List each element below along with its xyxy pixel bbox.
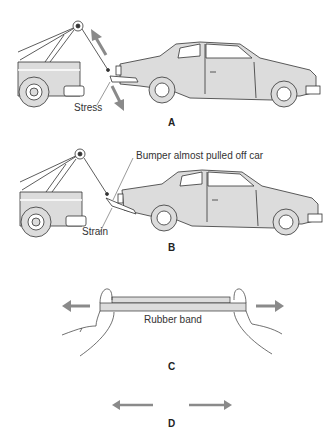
panel-letter-d: D xyxy=(168,418,175,429)
bumper-label: Bumper almost pulled off car xyxy=(136,150,263,161)
stress-label: Stress xyxy=(74,102,102,113)
panel-b: Bumper almost pulled off car Strain B xyxy=(0,130,334,270)
panel-letter-a: A xyxy=(168,117,175,128)
rubber-band xyxy=(100,297,246,311)
strain-label: Strain xyxy=(82,226,108,237)
arrow-icon xyxy=(112,400,232,410)
tow-truck-stress-illustration xyxy=(0,0,334,130)
force-arrows-illustration xyxy=(0,380,334,441)
panel-letter-b: B xyxy=(168,242,175,253)
panel-c: Rubber band C xyxy=(0,270,334,380)
panel-a: Stress A xyxy=(0,0,334,130)
panel-letter-c: C xyxy=(168,361,175,372)
car-icon xyxy=(110,42,320,107)
tow-truck-icon xyxy=(20,149,109,237)
rubber-band-label: Rubber band xyxy=(144,314,202,325)
car-icon xyxy=(106,170,322,235)
panel-d: D xyxy=(0,380,334,441)
rubber-band-illustration xyxy=(0,270,334,380)
